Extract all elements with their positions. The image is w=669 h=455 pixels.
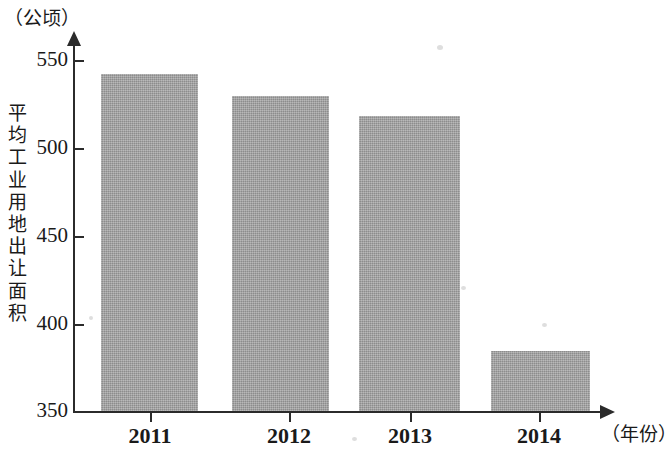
x-tick-label-2014: 2014 (484, 422, 594, 450)
x-tick-label-2013: 2013 (355, 422, 465, 450)
y-tick-label: 400 (2, 313, 68, 334)
bar-2013 (359, 116, 460, 411)
bar-2011 (101, 74, 198, 411)
y-tick-label: 450 (2, 225, 68, 246)
y-axis-unit-label: （公顷） (4, 6, 80, 32)
paper-speck (542, 323, 547, 327)
x-tick-label-2011: 2011 (95, 422, 205, 450)
y-tick-label: 550 (2, 49, 68, 70)
paper-speck (89, 316, 93, 320)
y-axis-arrow-icon (67, 31, 81, 46)
bar-2012 (232, 96, 329, 411)
y-tick-mark (75, 60, 84, 62)
y-axis-line (73, 44, 75, 413)
x-tick-label-2012: 2012 (234, 422, 344, 450)
x-tick-mark (150, 413, 152, 422)
paper-speck (461, 286, 466, 290)
y-tick-mark (75, 411, 84, 413)
bar-2014 (491, 351, 590, 411)
paper-speck (437, 45, 443, 50)
x-tick-mark (410, 413, 412, 422)
x-tick-mark (289, 413, 291, 422)
y-tick-mark (75, 236, 84, 238)
y-tick-mark (75, 324, 84, 326)
y-tick-label: 500 (2, 137, 68, 158)
x-axis-unit-label: （年份） (601, 421, 669, 449)
x-axis-arrow-icon (600, 405, 615, 419)
y-tick-label: 350 (2, 400, 68, 421)
x-axis-line (73, 411, 606, 413)
x-tick-mark (539, 413, 541, 422)
y-tick-mark (75, 148, 84, 150)
